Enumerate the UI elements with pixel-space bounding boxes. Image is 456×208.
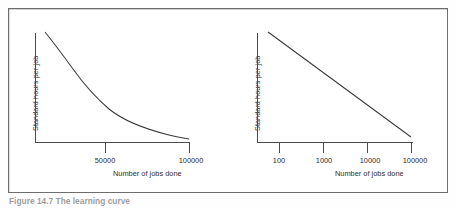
x-tick-mark-100000 — [189, 142, 190, 153]
x-tick-label-100: 100 — [273, 156, 285, 165]
x-tick-mark-100000 — [411, 142, 412, 153]
chart-panel-linear: Standard hours per job 50000 100000 Numb… — [9, 9, 231, 194]
x-tick-label-10000: 10000 — [360, 156, 381, 165]
plot-area-right — [231, 9, 449, 194]
figure-caption: Figure 14.7 The learning curve — [9, 196, 130, 206]
figure-frame: Standard hours per job 50000 100000 Numb… — [8, 8, 448, 193]
x-axis-label-right: Number of jobs done — [335, 169, 404, 178]
x-tick-mark-10000 — [367, 142, 368, 153]
x-tick-label-100000: 100000 — [403, 156, 428, 165]
x-tick-label-1000: 1000 — [316, 156, 332, 165]
x-tick-mark-100 — [279, 142, 280, 153]
figure-root: Standard hours per job 50000 100000 Numb… — [0, 0, 456, 208]
learning-curve-line-left — [45, 32, 189, 139]
x-tick-label-50000: 50000 — [95, 156, 116, 165]
x-axis-label-left: Number of jobs done — [113, 169, 182, 178]
learning-curve-line-right — [268, 32, 411, 137]
plot-area-left — [9, 9, 231, 194]
x-tick-mark-50000 — [105, 142, 106, 153]
chart-panel-log: Standard hours per job 100 1000 10000 10… — [231, 9, 449, 194]
x-tick-label-100000: 100000 — [179, 156, 204, 165]
x-tick-mark-1000 — [323, 142, 324, 153]
